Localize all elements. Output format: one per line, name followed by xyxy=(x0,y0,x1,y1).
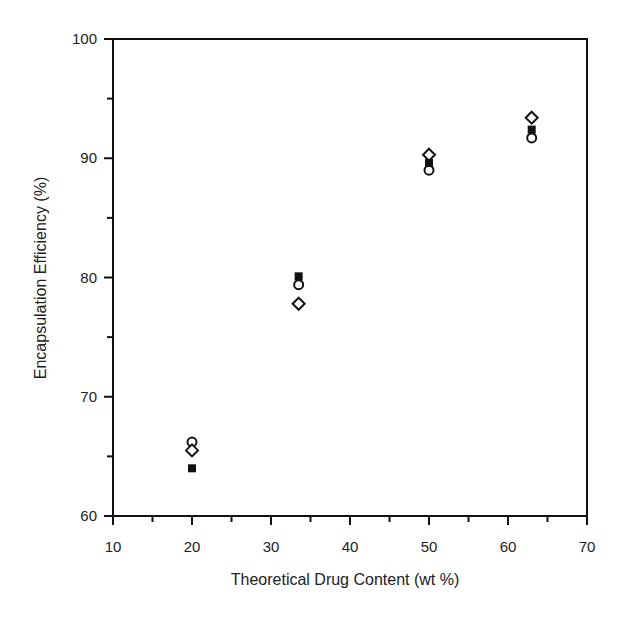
plot-border xyxy=(113,39,587,516)
y-tick-label: 70 xyxy=(80,388,97,405)
circle-marker xyxy=(425,166,434,175)
scatter-chart: 10203040506070 60708090100 Theoretical D… xyxy=(0,0,621,618)
plot-frame xyxy=(113,39,587,516)
circle-marker xyxy=(527,133,536,142)
diamond-marker xyxy=(423,149,435,161)
square-marker xyxy=(188,464,196,472)
y-tick-label: 90 xyxy=(80,149,97,166)
x-tick-label: 70 xyxy=(579,538,596,555)
square-marker xyxy=(528,126,536,134)
diamond-marker xyxy=(526,112,538,124)
x-tick-label: 20 xyxy=(184,538,201,555)
y-axis-title: Encapsulation Efficiency (%) xyxy=(32,177,49,379)
square-marker xyxy=(295,272,303,280)
y-tick-label: 60 xyxy=(80,507,97,524)
diamond-marker xyxy=(186,444,198,456)
y-tick-label: 80 xyxy=(80,269,97,286)
data-points xyxy=(186,112,538,473)
x-tick-label: 40 xyxy=(342,538,359,555)
y-axis-ticks: 60708090100 xyxy=(72,30,113,524)
x-axis-ticks: 10203040506070 xyxy=(105,516,596,555)
circle-marker xyxy=(294,280,303,289)
x-tick-label: 30 xyxy=(263,538,280,555)
square-marker xyxy=(425,159,433,167)
x-tick-label: 50 xyxy=(421,538,438,555)
y-tick-label: 100 xyxy=(72,30,97,47)
diamond-marker xyxy=(293,298,305,310)
x-tick-label: 10 xyxy=(105,538,122,555)
x-axis-title: Theoretical Drug Content (wt %) xyxy=(231,571,460,588)
x-tick-label: 60 xyxy=(500,538,517,555)
